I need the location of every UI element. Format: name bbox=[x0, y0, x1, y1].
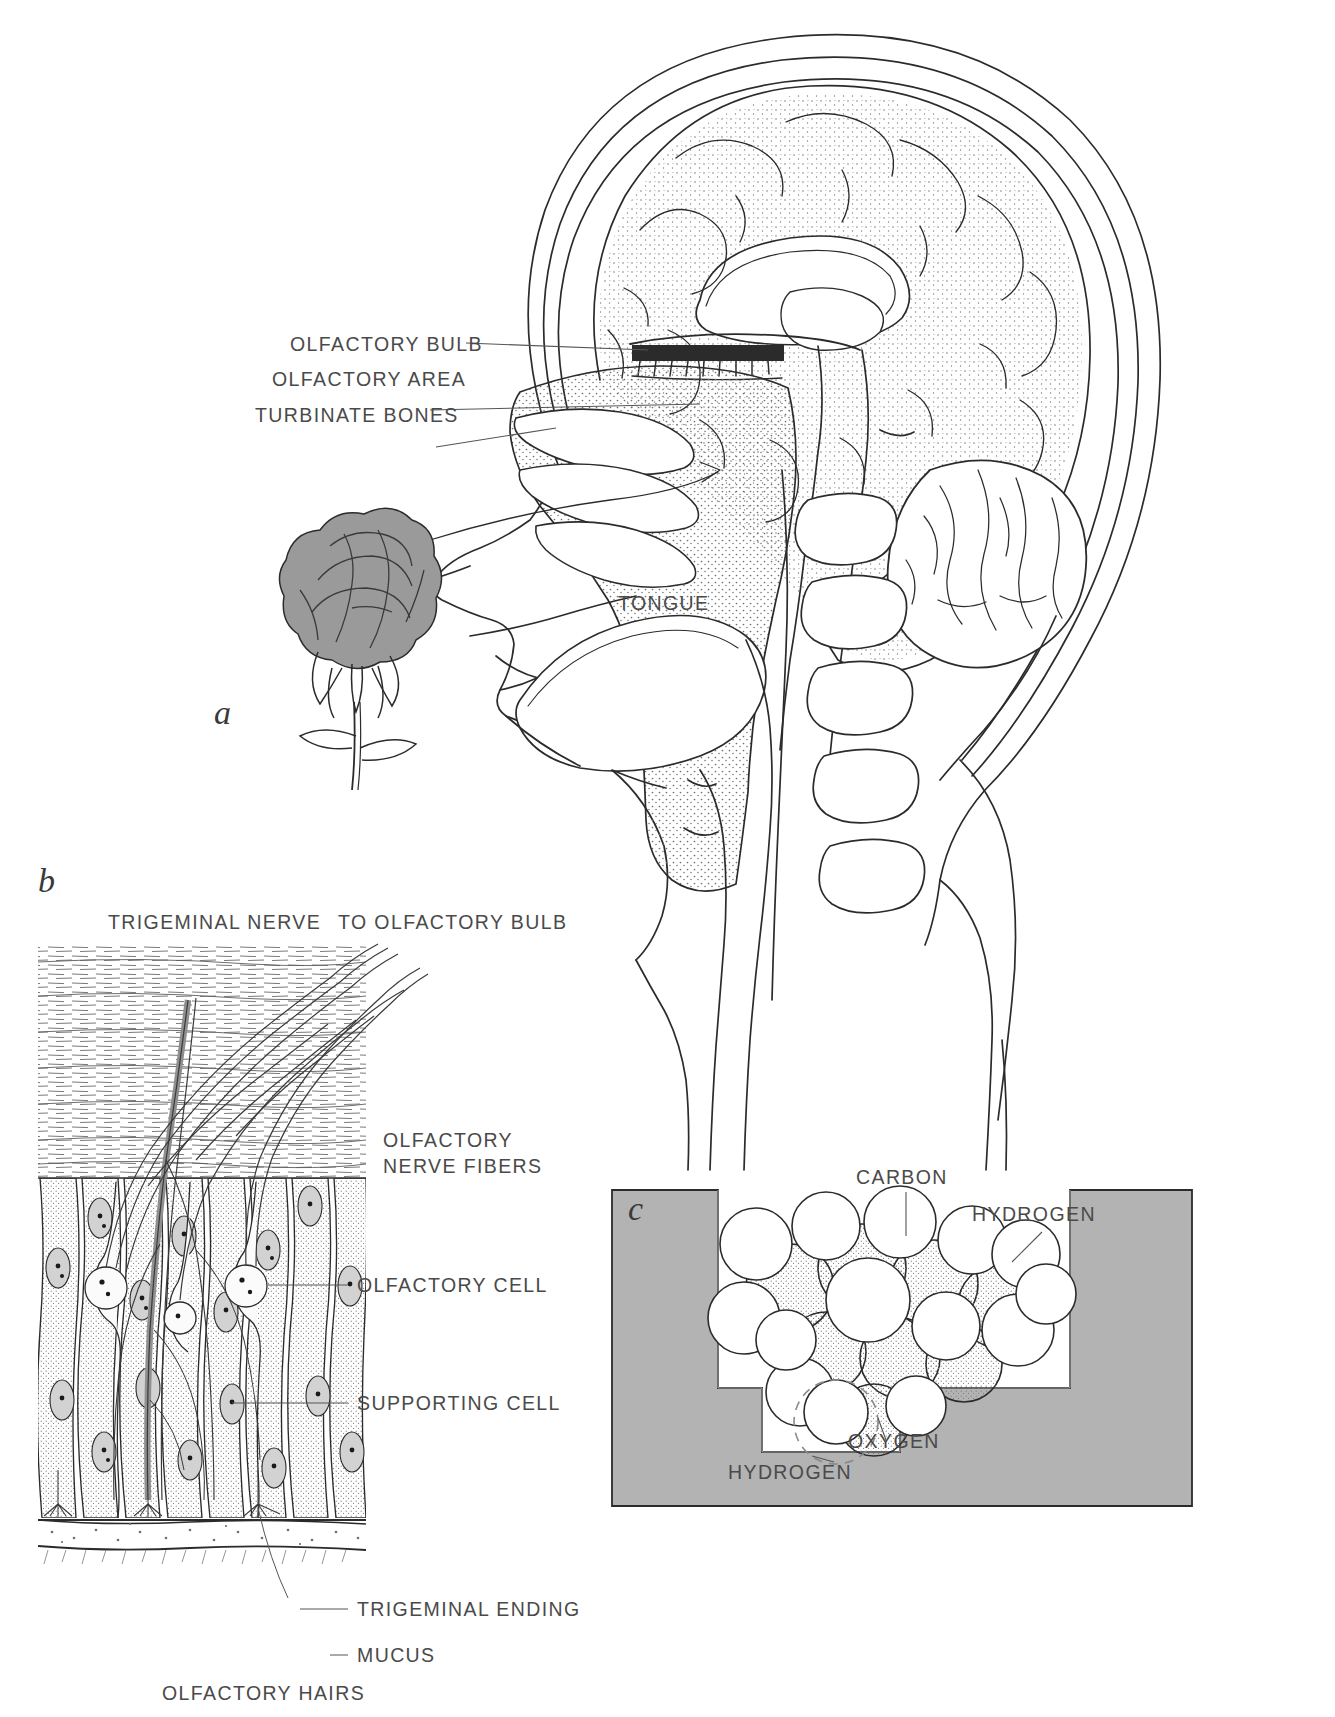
label-hydrogen-bottom: HYDROGEN bbox=[728, 1461, 852, 1484]
label-oxygen: OXYGEN bbox=[848, 1430, 940, 1453]
label-mucus: MUCUS bbox=[357, 1644, 436, 1667]
panel-letter-a: a bbox=[214, 694, 231, 732]
panel-c-receptor-site bbox=[612, 1186, 1192, 1506]
label-supporting-cell: SUPPORTING CELL bbox=[357, 1392, 561, 1415]
panel-a-head-diagram bbox=[430, 35, 1160, 1170]
label-carbon: CARBON bbox=[856, 1166, 948, 1189]
label-olfactory-bulb: OLFACTORY BULB bbox=[290, 333, 483, 356]
label-olfactory-cell: OLFACTORY CELL bbox=[357, 1274, 548, 1297]
label-tongue: TONGUE bbox=[618, 592, 709, 615]
label-olfactory-nerve-fibers-line2: NERVE FIBERS bbox=[383, 1155, 542, 1178]
label-hydrogen-top: HYDROGEN bbox=[972, 1203, 1096, 1226]
panel-letter-b: b bbox=[38, 862, 55, 900]
label-olfactory-hairs: OLFACTORY HAIRS bbox=[162, 1682, 365, 1705]
label-olfactory-area: OLFACTORY AREA bbox=[272, 368, 466, 391]
label-trigeminal-nerve: TRIGEMINAL NERVE bbox=[108, 911, 321, 934]
label-olfactory-nerve-fibers-line1: OLFACTORY bbox=[383, 1129, 513, 1152]
label-trigeminal-ending: TRIGEMINAL ENDING bbox=[357, 1598, 581, 1621]
panel-b-epithelium bbox=[37, 944, 428, 1655]
label-to-olfactory-bulb: TO OLFACTORY BULB bbox=[338, 911, 567, 934]
rose-illustration bbox=[279, 508, 441, 790]
label-turbinate-bones: TURBINATE BONES bbox=[255, 404, 459, 427]
figure-root: OLFACTORY BULB OLFACTORY AREA TURBINATE … bbox=[0, 0, 1335, 1717]
figure-canvas bbox=[0, 0, 1335, 1717]
panel-letter-c: c bbox=[628, 1190, 643, 1228]
